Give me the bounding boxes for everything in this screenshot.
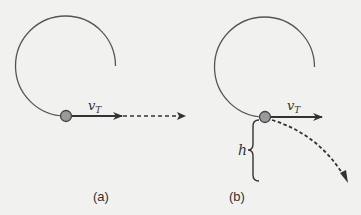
dashed-trajectory-arrowhead-icon [340,170,348,183]
caption-a: (a) [93,189,109,204]
panel-a: vT (a) [15,16,186,204]
dashed-trajectory-arrowhead-icon [177,112,186,120]
circular-path-arc [214,17,314,117]
panel-b: h vT (b) [214,17,348,204]
velocity-label-b: vT [287,98,301,115]
caption-b: (b) [229,189,245,204]
height-brace-icon [248,120,259,181]
ball [260,112,271,123]
dashed-trajectory-curved [272,120,344,176]
velocity-label-a: vT [88,98,102,115]
circular-path-arc [15,16,115,116]
diagram-canvas: vT (a) h vT (b) [0,0,361,215]
height-label: h [238,142,247,158]
ball [61,111,72,122]
